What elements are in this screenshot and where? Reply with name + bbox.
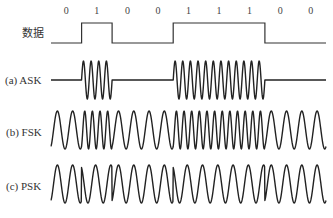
bit-label: 1 bbox=[247, 5, 252, 16]
row-label-data: 数据 bbox=[22, 26, 44, 40]
row-label-ask: (a) ASK bbox=[5, 74, 41, 87]
bit-label: 0 bbox=[278, 5, 283, 16]
bit-label: 1 bbox=[217, 5, 222, 16]
fsk-waveform bbox=[51, 111, 326, 149]
modulation-diagram: 010011100 数据 (a) ASK (b) FSK (c) PSK bbox=[0, 0, 333, 218]
bit-label: 0 bbox=[125, 5, 130, 16]
data-signal-waveform bbox=[51, 23, 326, 43]
ask-waveform bbox=[51, 61, 326, 99]
bit-label: 0 bbox=[155, 5, 160, 16]
bit-label: 1 bbox=[94, 5, 99, 16]
row-label-psk: (c) PSK bbox=[6, 180, 41, 193]
row-label-fsk: (b) FSK bbox=[6, 126, 42, 139]
psk-waveform bbox=[51, 165, 326, 203]
bit-label: 0 bbox=[308, 5, 313, 16]
bit-labels: 010011100 bbox=[64, 5, 313, 16]
bit-label: 0 bbox=[64, 5, 69, 16]
bit-label: 1 bbox=[186, 5, 191, 16]
